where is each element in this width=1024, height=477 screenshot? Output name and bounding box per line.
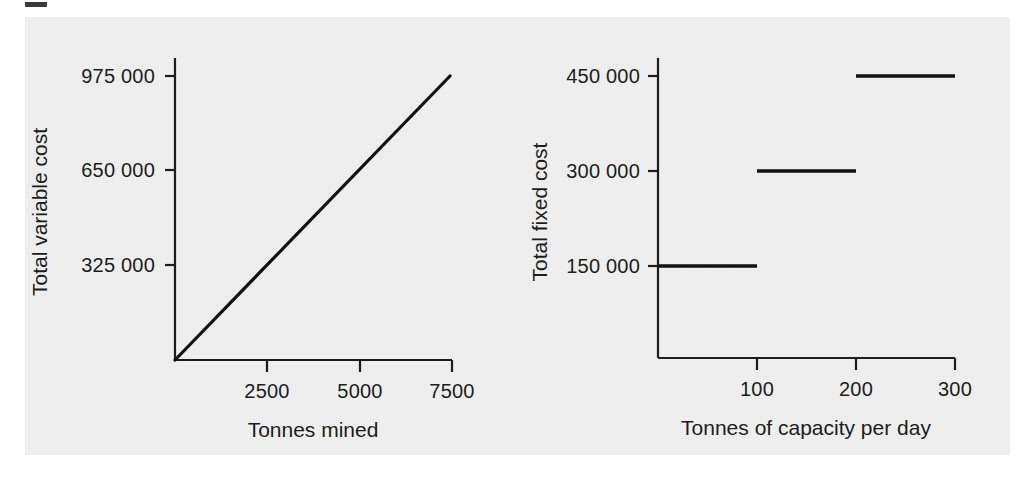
x-axis-title-tonnes-mined: Tonnes mined xyxy=(248,418,379,442)
chart-total-variable-cost: 975 000 650 000 325 000 2500 5000 7500 T… xyxy=(0,0,512,477)
y-tick-label-450000: 450 000 xyxy=(522,65,640,88)
x-tick-label-100: 100 xyxy=(740,378,774,401)
figure-root: 975 000 650 000 325 000 2500 5000 7500 T… xyxy=(0,0,1024,477)
x-tick-label-2500: 2500 xyxy=(244,380,289,403)
y-tick-label-975000: 975 000 xyxy=(40,65,155,88)
x-tick-label-300: 300 xyxy=(938,378,972,401)
x-tick-label-5000: 5000 xyxy=(337,380,382,403)
variable-cost-line xyxy=(175,76,450,360)
chart-total-fixed-cost: 450 000 300 000 150 000 100 200 300 Tonn… xyxy=(512,0,1024,477)
y-axis-title-total-variable-cost: Total variable cost xyxy=(0,200,150,224)
y-tick-label-650000: 650 000 xyxy=(40,159,155,182)
y-axis-title-total-fixed-cost: Total fixed cost xyxy=(430,200,650,224)
y-axis-title-text: Total variable cost xyxy=(28,102,52,322)
x-tick-label-200: 200 xyxy=(839,378,873,401)
y-axis-title-text: Total fixed cost xyxy=(528,102,552,322)
x-axis-title-tonnes-capacity: Tonnes of capacity per day xyxy=(681,416,931,440)
y-tick-label-325000: 325 000 xyxy=(40,254,155,277)
x-tick-label-7500: 7500 xyxy=(429,380,474,403)
